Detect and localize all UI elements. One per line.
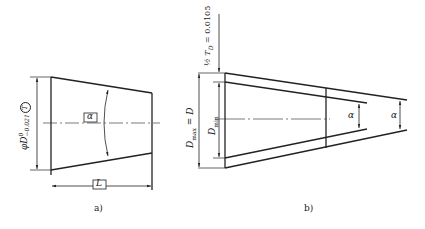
dmin-sub: min <box>212 116 219 127</box>
half-tolerance-label: ½ TD = 0.0105 <box>203 6 214 66</box>
angle-alpha-b2: α <box>391 110 397 120</box>
dmax-sub: max <box>190 128 197 141</box>
diameter-tolerance-label: φD0−0.021T <box>18 102 31 150</box>
angle-alpha-a: α <box>87 111 93 121</box>
dmin-d: D <box>207 128 217 135</box>
dmax-d: D <box>185 141 195 148</box>
angle-alpha-b1: α <box>348 110 354 120</box>
tol-lower: −0.021 <box>24 114 30 136</box>
half-td: ½ T <box>203 50 212 66</box>
circled-t-symbol: T <box>20 102 31 113</box>
dmax-eq: = D <box>185 108 195 128</box>
length-label: L <box>96 178 102 188</box>
td-sub: D <box>207 46 214 51</box>
dmin-label: Dmin <box>207 116 219 135</box>
diameter-label: φD <box>19 136 29 150</box>
caption-b: b) <box>304 203 313 213</box>
td-value: = 0.0105 <box>203 6 212 46</box>
caption-a: a) <box>94 203 103 213</box>
dmax-label: Dmax = D <box>185 108 197 148</box>
